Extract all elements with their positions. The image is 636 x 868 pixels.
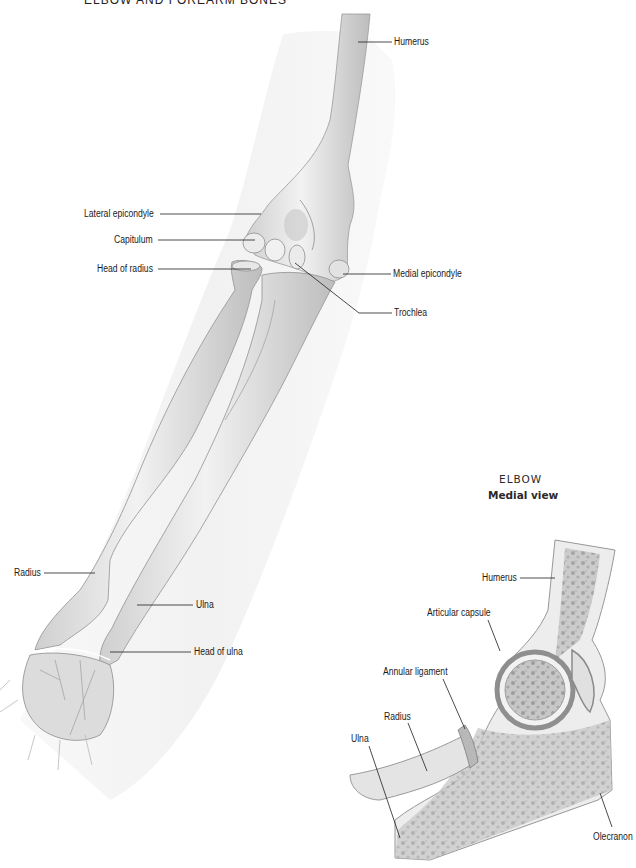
label-radius: Radius — [14, 567, 41, 579]
inset-label-ulna: Ulna — [351, 733, 369, 745]
label-trochlea: Trochlea — [394, 307, 427, 319]
label-medial-epicondyle: Medial epicondyle — [393, 268, 462, 280]
label-ulna: Ulna — [196, 599, 214, 611]
illustration — [0, 0, 636, 868]
inset-label-olecranon: Olecranon — [593, 831, 633, 843]
inset-illustration — [350, 540, 615, 860]
label-head-of-ulna: Head of ulna — [194, 646, 243, 658]
inset-title: ELBOW — [499, 473, 542, 485]
inset-label-humerus: Humerus — [482, 572, 517, 584]
inset-label-annular-ligament: Annular ligament — [383, 666, 448, 678]
anatomy-figure: ELBOW AND FOREARM BONES — [0, 0, 636, 868]
label-lateral-epicondyle: Lateral epicondyle — [84, 208, 154, 220]
inset-subtitle: Medial view — [488, 489, 558, 501]
label-head-of-radius: Head of radius — [97, 263, 153, 275]
inset-label-articular-capsule: Articular capsule — [427, 607, 491, 619]
label-humerus: Humerus — [394, 36, 429, 48]
label-capitulum: Capitulum — [114, 234, 153, 246]
inset-label-radius: Radius — [384, 711, 411, 723]
